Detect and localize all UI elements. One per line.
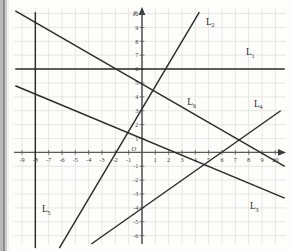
x-tick-label-7: 7 xyxy=(234,156,237,163)
x-tick-label-2: 2 xyxy=(167,156,170,163)
x-tick-label-6: 6 xyxy=(220,156,223,163)
x-tick-label--3: -3 xyxy=(99,156,104,163)
x-tick-label--5: -5 xyxy=(73,156,78,163)
y-tick-label-9: 9 xyxy=(135,24,138,31)
x-axis-name-label: x xyxy=(272,156,276,163)
line-label-l2-subscript: 2 xyxy=(212,22,215,28)
y-tick-label--3: -3 xyxy=(133,190,138,197)
y-tick-label-4: 4 xyxy=(135,93,138,100)
x-tick-label-9: 9 xyxy=(260,156,263,163)
x-tick-label--4: -4 xyxy=(86,156,91,163)
y-tick-label-8: 8 xyxy=(135,38,138,45)
x-tick-label--7: -7 xyxy=(46,156,51,163)
line-label-l4-subscript: 4 xyxy=(260,104,263,110)
y-tick-label--4: -4 xyxy=(133,204,138,211)
x-tick-label-1: 1 xyxy=(154,156,157,163)
y-tick-label--2: -2 xyxy=(133,176,138,183)
line-label-l3-subscript: 3 xyxy=(256,207,259,213)
y-axis-name-label: y xyxy=(133,8,137,15)
x-tick-label--9: -9 xyxy=(19,156,24,163)
plot-background xyxy=(9,0,292,251)
y-tick-label-7: 7 xyxy=(135,51,138,58)
y-tick-label--1: -1 xyxy=(133,162,138,169)
line-label-l6-subscript: 6 xyxy=(193,103,196,109)
x-tick-label-3: 3 xyxy=(180,156,183,163)
scanned-page: -9-8-7-6-5-4-3-2-11234567891010987654321… xyxy=(0,0,292,251)
y-tick-label-3: 3 xyxy=(135,107,138,114)
y-tick-label-2: 2 xyxy=(135,121,138,128)
y-tick-label--5: -5 xyxy=(133,218,138,225)
x-tick-label--6: -6 xyxy=(59,156,64,163)
line-label-l5-subscript: 5 xyxy=(48,210,51,216)
coordinate-plot-svg: -9-8-7-6-5-4-3-2-11234567891010987654321… xyxy=(0,0,292,251)
x-tick-label--1: -1 xyxy=(126,156,131,163)
coordinate-graph-figure: -9-8-7-6-5-4-3-2-11234567891010987654321… xyxy=(0,0,292,251)
origin-label: O xyxy=(131,145,136,152)
y-tick-label--6: -6 xyxy=(133,232,138,239)
line-label-l1-subscript: 1 xyxy=(252,53,255,59)
x-tick-label-8: 8 xyxy=(247,156,250,163)
